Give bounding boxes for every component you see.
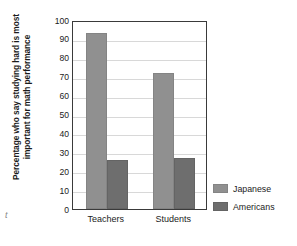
y-tick-label-60: 60 <box>45 92 69 101</box>
y-tick-label-100: 100 <box>45 17 69 26</box>
y-axis-title-container: Percentage who say studying hard is most… <box>7 0 37 197</box>
y-tick-label-80: 80 <box>45 54 69 63</box>
plot-inner <box>73 22 206 209</box>
bar-students-americans <box>174 158 195 209</box>
y-tick-label-10: 10 <box>45 187 69 196</box>
y-axis-tick-labels: 0102030405060708090100 <box>42 21 69 210</box>
y-axis-title: Percentage who say studying hard is most… <box>11 0 33 195</box>
legend-label-japanese: Japanese <box>233 184 271 194</box>
bar-students-japanese <box>153 73 174 209</box>
y-tick-label-0: 0 <box>45 206 69 215</box>
legend-item-americans[interactable]: Americans <box>213 199 295 214</box>
legend-swatch-icon-japanese <box>213 184 228 193</box>
x-axis-tick-labels: TeachersStudents <box>72 213 207 227</box>
y-tick-label-90: 90 <box>45 35 69 44</box>
bar-teachers-japanese <box>86 33 107 209</box>
bar-group-teachers <box>73 22 141 209</box>
stray-artifact-mark: t <box>5 211 8 220</box>
y-tick-label-30: 30 <box>45 149 69 158</box>
y-tick-label-20: 20 <box>45 168 69 177</box>
legend-item-japanese[interactable]: Japanese <box>213 181 295 196</box>
bar-teachers-americans <box>107 160 128 209</box>
y-tick-label-40: 40 <box>45 130 69 139</box>
legend-swatch-icon-americans <box>213 202 228 211</box>
bar-group-students <box>141 22 209 209</box>
x-tick-label-teachers: Teachers <box>72 213 140 225</box>
legend: JapaneseAmericans <box>213 181 295 217</box>
legend-label-americans: Americans <box>233 202 275 212</box>
bar-chart-figure: t Percentage who say studying hard is mo… <box>0 0 297 246</box>
x-tick-label-students: Students <box>140 213 208 225</box>
plot-area <box>72 21 207 210</box>
y-tick-label-50: 50 <box>45 111 69 120</box>
y-tick-label-70: 70 <box>45 73 69 82</box>
